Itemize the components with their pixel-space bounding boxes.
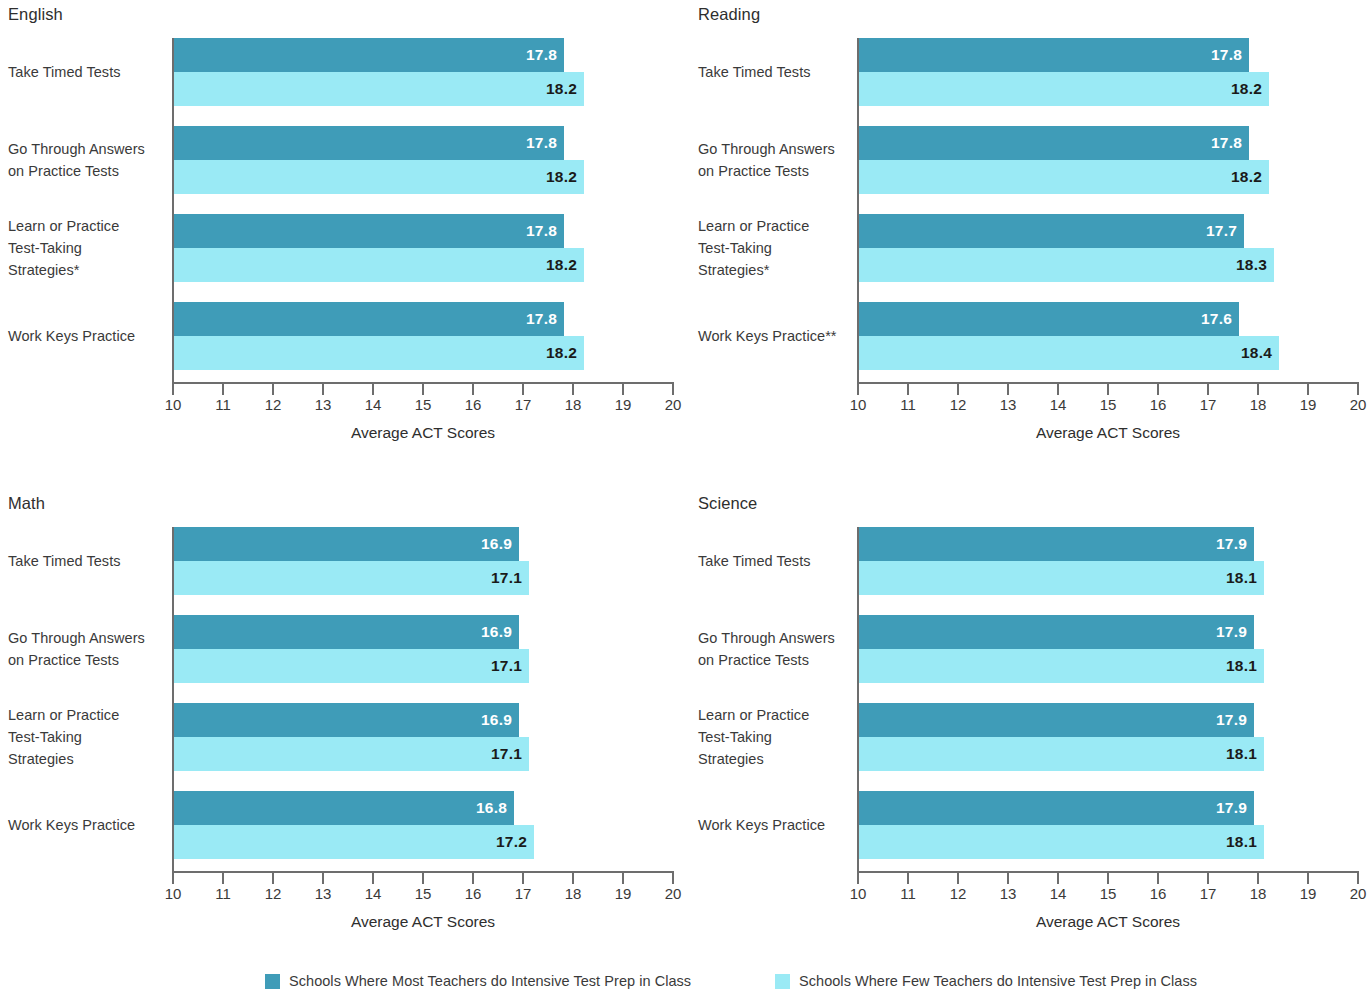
- bar: 17.7: [859, 214, 1244, 248]
- bar-value-label: 17.9: [1216, 799, 1247, 817]
- bar-value-label: 18.1: [1226, 745, 1257, 763]
- x-axis-tick-label: 10: [165, 885, 182, 902]
- bar: 16.9: [174, 703, 519, 737]
- bar-value-label: 17.9: [1216, 711, 1247, 729]
- category-label: Go Through Answers on Practice Tests: [698, 138, 835, 182]
- x-axis-tick-label: 12: [950, 396, 967, 413]
- x-axis-tick-label: 16: [1150, 396, 1167, 413]
- x-axis-tick-label: 18: [565, 396, 582, 413]
- x-axis-tick: [857, 384, 859, 395]
- x-axis-tick: [1257, 384, 1259, 395]
- category-label: Work Keys Practice: [8, 814, 135, 836]
- plot-area: 1011121314151617181920Average ACT Scores…: [172, 527, 674, 857]
- bar-value-label: 18.1: [1226, 833, 1257, 851]
- category-label: Take Timed Tests: [698, 61, 811, 83]
- x-axis-tick: [857, 873, 859, 884]
- x-axis-tick: [1107, 873, 1109, 884]
- bar: 17.8: [174, 302, 564, 336]
- bar-value-label: 18.2: [546, 344, 577, 362]
- bar-value-label: 17.2: [496, 833, 527, 851]
- x-axis-tick: [222, 873, 224, 884]
- x-axis-tick: [907, 873, 909, 884]
- x-axis-tick-label: 17: [1200, 396, 1217, 413]
- bar: 18.1: [859, 825, 1264, 859]
- x-axis-title: Average ACT Scores: [172, 424, 674, 442]
- x-axis-tick-label: 19: [1300, 396, 1317, 413]
- bar: 18.2: [174, 336, 584, 370]
- bar: 16.9: [174, 615, 519, 649]
- x-axis-tick: [522, 384, 524, 395]
- x-axis-tick-label: 19: [1300, 885, 1317, 902]
- x-axis-tick: [1357, 384, 1359, 395]
- x-axis-tick-label: 17: [1200, 885, 1217, 902]
- x-axis-tick: [1057, 873, 1059, 884]
- x-axis-tick: [1007, 873, 1009, 884]
- x-axis-tick-label: 12: [950, 885, 967, 902]
- category-label: Work Keys Practice: [8, 325, 135, 347]
- x-axis-tick: [1107, 384, 1109, 395]
- x-axis-tick-label: 15: [415, 396, 432, 413]
- x-axis-tick-label: 14: [1050, 396, 1067, 413]
- bar: 17.9: [859, 703, 1254, 737]
- bar: 17.8: [174, 126, 564, 160]
- bar-value-label: 16.8: [476, 799, 507, 817]
- x-axis-tick: [322, 873, 324, 884]
- bar-value-label: 17.8: [526, 134, 557, 152]
- category-label: Take Timed Tests: [8, 550, 121, 572]
- x-axis-tick-label: 18: [565, 885, 582, 902]
- bar: 17.9: [859, 615, 1254, 649]
- x-axis-tick-label: 17: [515, 396, 532, 413]
- bar-value-label: 17.1: [491, 745, 522, 763]
- bar: 17.8: [859, 126, 1249, 160]
- bar-value-label: 17.9: [1216, 623, 1247, 641]
- bar-value-label: 16.9: [481, 623, 512, 641]
- x-axis-tick-label: 16: [465, 885, 482, 902]
- category-label: Learn or Practice Test-Taking Strategies…: [8, 215, 119, 281]
- bar: 17.8: [859, 38, 1249, 72]
- bar-value-label: 16.9: [481, 711, 512, 729]
- x-axis-tick-label: 19: [615, 885, 632, 902]
- x-axis-tick: [622, 873, 624, 884]
- bar: 18.2: [859, 72, 1269, 106]
- category-label: Go Through Answers on Practice Tests: [8, 627, 145, 671]
- x-axis-tick-label: 12: [265, 396, 282, 413]
- bar: 17.9: [859, 527, 1254, 561]
- x-axis-tick: [672, 384, 674, 395]
- category-label: Take Timed Tests: [8, 61, 121, 83]
- category-label: Work Keys Practice**: [698, 325, 837, 347]
- x-axis-tick-label: 13: [1000, 885, 1017, 902]
- x-axis-tick-label: 16: [465, 396, 482, 413]
- bar: 18.1: [859, 561, 1264, 595]
- x-axis-tick-label: 12: [265, 885, 282, 902]
- bar: 18.2: [174, 248, 584, 282]
- x-axis-tick: [572, 873, 574, 884]
- bar-value-label: 17.9: [1216, 535, 1247, 553]
- bar: 16.9: [174, 527, 519, 561]
- x-axis-tick-label: 11: [900, 885, 916, 902]
- x-axis-tick-label: 20: [1350, 885, 1367, 902]
- x-axis-title: Average ACT Scores: [857, 424, 1359, 442]
- bar-value-label: 18.1: [1226, 657, 1257, 675]
- x-axis-tick: [1157, 384, 1159, 395]
- x-axis-tick-label: 20: [1350, 396, 1367, 413]
- legend-label: Schools Where Most Teachers do Intensive…: [289, 973, 691, 989]
- x-axis-tick-label: 17: [515, 885, 532, 902]
- x-axis-tick: [1357, 873, 1359, 884]
- x-axis-tick-label: 16: [1150, 885, 1167, 902]
- bar-value-label: 18.2: [1231, 80, 1262, 98]
- x-axis-tick: [272, 384, 274, 395]
- bar: 18.4: [859, 336, 1279, 370]
- bar-value-label: 17.8: [526, 46, 557, 64]
- bar: 17.2: [174, 825, 534, 859]
- x-axis-tick: [1057, 384, 1059, 395]
- x-axis-tick-label: 13: [315, 396, 332, 413]
- x-axis-tick: [172, 384, 174, 395]
- x-axis-tick-label: 15: [1100, 885, 1117, 902]
- x-axis-tick: [472, 384, 474, 395]
- plot-area: 1011121314151617181920Average ACT Scores…: [857, 527, 1359, 857]
- x-axis-tick: [372, 873, 374, 884]
- chart-panel-reading: ReadingTake Timed TestsGo Through Answer…: [683, 0, 1366, 478]
- panel-title: Math: [8, 494, 45, 513]
- x-axis-tick-label: 15: [1100, 396, 1117, 413]
- panel-title: Reading: [698, 5, 760, 24]
